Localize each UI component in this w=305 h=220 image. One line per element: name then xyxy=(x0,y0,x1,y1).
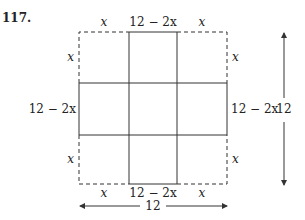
left-label-top: x xyxy=(67,50,74,64)
cutout-box-diagram: 117. x 12 − 2x x x 12 − 2x x x 12 − 2x x… xyxy=(0,0,305,220)
left-label-middle: 12 − 2x xyxy=(29,102,77,116)
corner-squares-dashed xyxy=(79,32,227,184)
top-label-right: x xyxy=(199,15,206,29)
top-label-left: x xyxy=(101,15,108,29)
height-dimension-arrow: 12 xyxy=(276,33,291,185)
top-label-middle: 12 − 2x xyxy=(129,15,177,29)
bottom-label-left: x xyxy=(101,186,108,200)
bottom-label-right: x xyxy=(199,186,206,200)
cross-net-solid xyxy=(79,32,227,184)
right-label-middle: 12 − 2x xyxy=(231,102,279,116)
right-label-bottom: x xyxy=(232,152,239,166)
width-dimension-arrow: 12 xyxy=(80,199,227,213)
bottom-label-middle: 12 − 2x xyxy=(129,186,177,200)
problem-number: 117. xyxy=(2,11,31,25)
right-label-top: x xyxy=(232,50,239,64)
width-label: 12 xyxy=(145,199,160,213)
left-label-bottom: x xyxy=(67,152,74,166)
height-label: 12 xyxy=(276,102,291,116)
